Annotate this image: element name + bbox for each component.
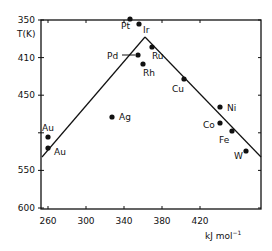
y-axis-title: T(K) (16, 29, 35, 39)
point-label-fe: Fe (219, 135, 230, 145)
point-au (45, 134, 50, 139)
y-tick-label: 350 (18, 15, 35, 25)
point-pd (135, 52, 140, 57)
y-tick-label: 550 (18, 165, 35, 175)
y-axis-ticks: 350410450550600 (18, 15, 261, 213)
point-label-pt: Pt (121, 21, 130, 31)
point-rh (140, 61, 145, 66)
point-fe (229, 128, 234, 133)
point-label-rh: Rh (143, 68, 155, 78)
y-tick-label: 410 (18, 53, 35, 63)
y-tick-label: 600 (18, 203, 35, 213)
x-tick-label: 340 (115, 216, 132, 226)
point-au (45, 145, 50, 150)
chart: 350410450550600 260300340380420 PtIrPdRu… (0, 0, 272, 251)
point-label-au: Au (54, 147, 66, 157)
point-ru (149, 44, 154, 49)
point-label-ir: Ir (143, 25, 150, 35)
point-ni (217, 104, 222, 109)
point-label-ni: Ni (227, 103, 236, 113)
point-label-au: Au (42, 123, 54, 133)
point-label-pd: Pd (107, 51, 118, 61)
x-tick-label: 260 (39, 216, 56, 226)
point-cu (181, 76, 186, 81)
x-axis-title-exponent: −1 (233, 229, 242, 236)
point-ag (109, 114, 114, 119)
point-label-w: W (234, 151, 243, 161)
point-label-ru: Ru (152, 51, 164, 61)
x-tick-label: 300 (77, 216, 94, 226)
point-label-co: Co (203, 120, 215, 130)
x-tick-label: 420 (191, 216, 208, 226)
x-axis-title-main: kJ mol (205, 231, 233, 241)
point-w (243, 148, 248, 153)
point-label-ag: Ag (119, 112, 131, 122)
point-co (217, 120, 222, 125)
point-label-cu: Cu (172, 84, 184, 94)
x-axis-title: kJ mol−1 (205, 229, 242, 241)
point-ir (136, 21, 141, 26)
y-tick-label: 450 (18, 90, 35, 100)
x-axis-ticks: 260300340380420 (39, 20, 208, 226)
x-tick-label: 380 (153, 216, 170, 226)
